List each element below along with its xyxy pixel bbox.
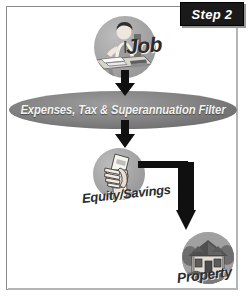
node-filter-label: Expenses, Tax & Superannuation Filter: [20, 104, 225, 117]
flow-diagram: Step 2: [0, 0, 248, 302]
node-property[interactable]: Property: [182, 232, 244, 298]
connector-equity-to-property: [138, 160, 218, 238]
step-badge: Step 2: [180, 2, 244, 26]
connector-job-to-filter: [112, 70, 138, 98]
node-job-label: Job: [125, 34, 162, 57]
connector-filter-to-equity: [112, 120, 138, 150]
step-badge-label: Step 2: [192, 8, 233, 21]
